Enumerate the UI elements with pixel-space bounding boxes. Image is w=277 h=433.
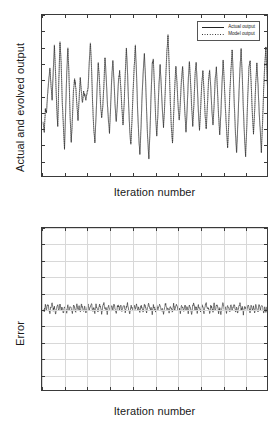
legend-entry-actual: Actual output — [202, 25, 255, 30]
gridline-horizontal — [42, 261, 267, 262]
y-tick-mark — [264, 359, 267, 360]
gridline-vertical — [178, 228, 179, 390]
gridline-horizontal — [42, 359, 267, 360]
y-tick-mark — [42, 162, 45, 163]
gridline-horizontal — [42, 343, 267, 344]
gridline-horizontal — [42, 310, 267, 311]
x-tick-mark — [246, 228, 247, 231]
y-tick-mark — [264, 162, 267, 163]
x-tick-mark — [87, 15, 88, 18]
x-tick-mark — [246, 173, 247, 176]
y-axis-title-bottom: Error — [14, 321, 26, 346]
y-tick-mark — [42, 277, 45, 278]
y-tick-mark — [42, 261, 45, 262]
gridline-vertical — [65, 228, 66, 390]
gridline-vertical — [87, 228, 88, 390]
x-tick-mark — [110, 173, 111, 176]
x-tick-mark — [42, 15, 43, 18]
x-tick-mark — [201, 387, 202, 390]
x-tick-mark — [178, 15, 179, 18]
y-tick-mark — [264, 228, 267, 229]
x-tick-mark — [133, 15, 134, 18]
trace-error — [42, 228, 267, 390]
x-tick-mark — [201, 173, 202, 176]
gridline-vertical — [246, 228, 247, 390]
x-tick-mark — [110, 387, 111, 390]
figure-root: Actual and evolved output Actual output … — [0, 0, 277, 433]
y-tick-mark — [42, 244, 45, 245]
y-tick-mark — [264, 326, 267, 327]
x-tick-mark — [201, 15, 202, 18]
x-tick-mark — [133, 228, 134, 231]
x-tick-mark — [224, 387, 225, 390]
y-tick-mark — [42, 326, 45, 327]
gridline-vertical — [42, 228, 43, 390]
legend-label-actual: Actual output — [228, 25, 255, 30]
y-tick-mark — [42, 31, 45, 32]
y-tick-mark — [42, 113, 45, 114]
chart-panel-error: Error 0.050.040.030.020.010-0.01-0.02-0.… — [0, 215, 277, 433]
y-tick-mark — [264, 145, 267, 146]
y-tick-mark — [42, 310, 45, 311]
x-tick-mark — [201, 228, 202, 231]
y-tick-mark — [264, 113, 267, 114]
x-tick-mark — [65, 15, 66, 18]
x-tick-mark — [133, 387, 134, 390]
x-tick-mark — [156, 228, 157, 231]
x-tick-mark — [87, 228, 88, 231]
gridline-vertical — [156, 228, 157, 390]
legend-swatch-solid-icon — [202, 25, 224, 30]
x-tick-mark — [246, 15, 247, 18]
y-tick-mark — [42, 294, 45, 295]
x-tick-mark — [156, 15, 157, 18]
x-tick-mark — [156, 387, 157, 390]
x-tick-mark — [65, 387, 66, 390]
x-tick-mark — [87, 173, 88, 176]
x-tick-mark — [110, 15, 111, 18]
gridline-vertical — [133, 228, 134, 390]
gridline-vertical — [201, 228, 202, 390]
plot-area-actual-vs-model: Actual output Model output 10.80.60.40.2… — [41, 14, 268, 177]
chart-panel-actual-vs-model: Actual and evolved output Actual output … — [0, 0, 277, 215]
x-tick-mark — [178, 173, 179, 176]
y-tick-mark — [42, 48, 45, 49]
y-tick-mark — [264, 244, 267, 245]
x-axis-title-top: Iteration number — [41, 186, 268, 198]
gridline-horizontal — [42, 228, 267, 229]
y-axis-title-top: Actual and evolved output — [14, 43, 26, 172]
x-axis-title-bottom: Iteration number — [41, 405, 268, 417]
x-tick-mark — [178, 387, 179, 390]
x-tick-mark — [42, 173, 43, 176]
y-tick-mark — [42, 64, 45, 65]
y-tick-mark — [42, 145, 45, 146]
plot-area-error: 0.050.040.030.020.010-0.01-0.02-0.03-0.0… — [41, 227, 268, 391]
y-tick-mark — [264, 15, 267, 16]
x-tick-mark — [65, 228, 66, 231]
y-tick-mark — [264, 97, 267, 98]
x-tick-mark — [65, 173, 66, 176]
gridline-vertical — [224, 228, 225, 390]
gridline-horizontal — [42, 244, 267, 245]
y-tick-mark — [42, 97, 45, 98]
y-tick-mark — [264, 294, 267, 295]
y-tick-mark — [42, 80, 45, 81]
y-tick-mark — [264, 64, 267, 65]
y-tick-mark — [264, 129, 267, 130]
legend-label-model: Model output — [228, 32, 255, 37]
x-tick-mark — [110, 228, 111, 231]
legend-swatch-dotted-icon — [202, 32, 224, 37]
y-tick-mark — [264, 48, 267, 49]
y-tick-mark — [264, 343, 267, 344]
y-tick-mark — [264, 80, 267, 81]
y-tick-mark — [42, 376, 45, 377]
x-tick-mark — [224, 173, 225, 176]
y-tick-mark — [264, 310, 267, 311]
gridline-horizontal — [42, 376, 267, 377]
gridline-horizontal — [42, 294, 267, 295]
y-tick-mark — [264, 277, 267, 278]
y-tick-mark — [42, 359, 45, 360]
y-tick-mark — [264, 261, 267, 262]
legend-entry-model: Model output — [202, 32, 255, 37]
x-tick-mark — [133, 173, 134, 176]
y-tick-mark — [42, 129, 45, 130]
